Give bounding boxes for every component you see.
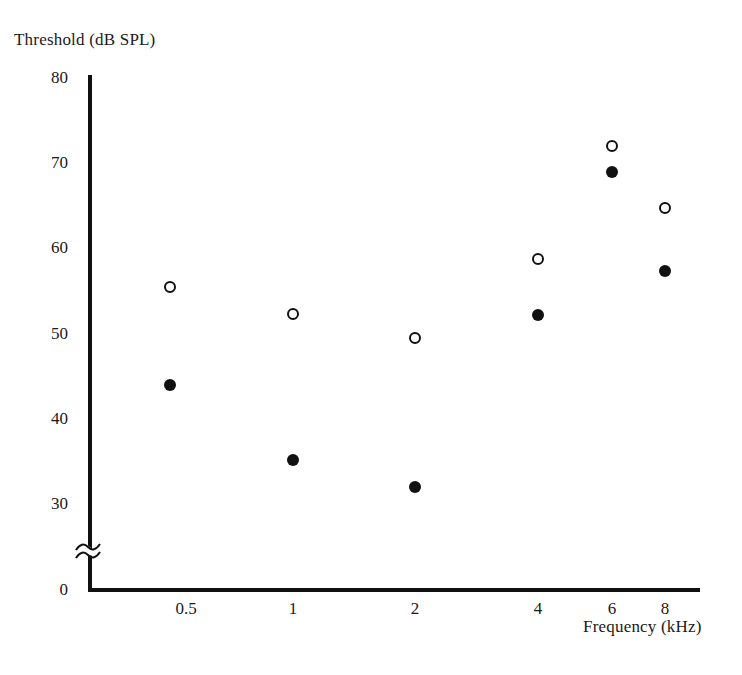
x-tick-label: 1 [289,599,298,619]
data-point-filled-circle [659,265,671,277]
plot-axes [0,0,742,675]
data-point-filled-circle [164,379,176,391]
x-tick-label: 4 [534,599,543,619]
x-tick-label: 6 [608,599,617,619]
data-point-filled-circle [532,309,544,321]
y-tick-label: 0 [60,580,69,600]
x-tick-label: 8 [661,599,670,619]
data-point-open-circle [606,140,618,152]
x-tick-label: 2 [411,599,420,619]
y-tick-label: 30 [51,494,68,514]
data-point-open-circle [532,253,544,265]
data-point-filled-circle [606,166,618,178]
y-tick-label: 80 [51,68,68,88]
y-tick-label: 40 [51,409,68,429]
data-point-open-circle [164,281,176,293]
data-point-open-circle [659,202,671,214]
x-tick-label: 0.5 [175,599,196,619]
y-tick-label: 50 [51,324,68,344]
data-point-filled-circle [409,481,421,493]
y-tick-label: 70 [51,153,68,173]
data-point-open-circle [409,332,421,344]
data-point-filled-circle [287,454,299,466]
data-point-open-circle [287,308,299,320]
chart-figure: Threshold (dB SPL) Frequency (kHz) 80706… [0,0,742,675]
y-tick-label: 60 [51,238,68,258]
